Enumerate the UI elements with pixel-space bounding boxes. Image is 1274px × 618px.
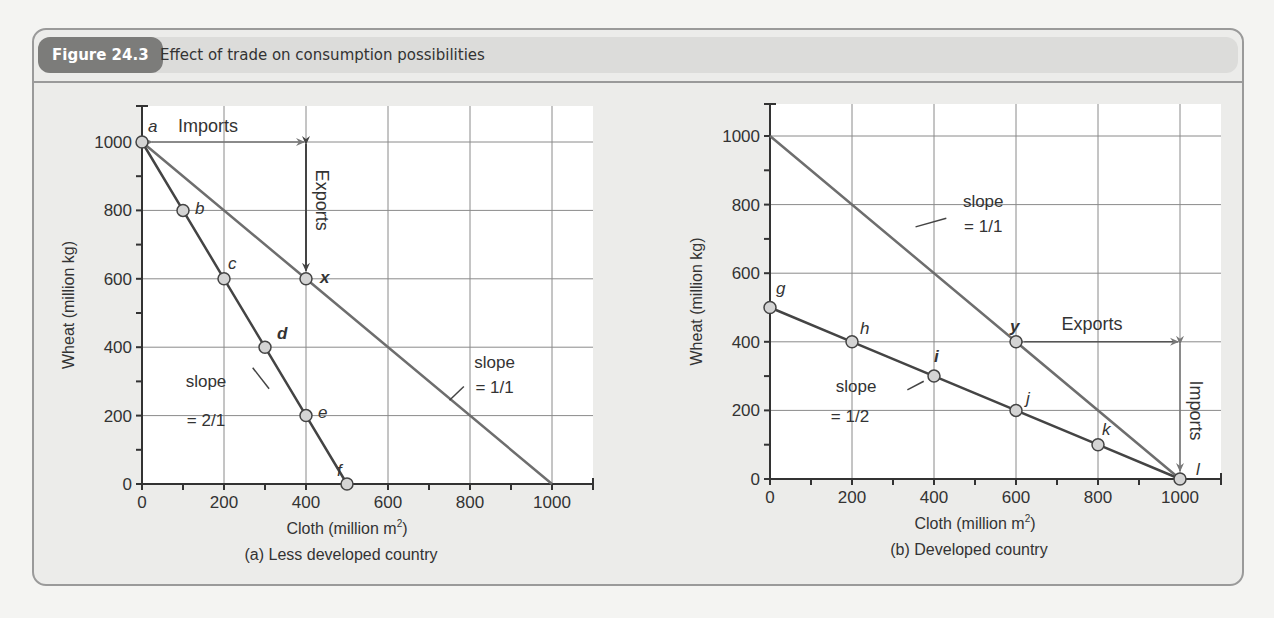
data-point-i	[928, 370, 940, 382]
y-axis-label: Wheat (million kg)	[60, 241, 77, 369]
y-tick-label: 1000	[722, 127, 760, 146]
x-tick-label: 200	[210, 493, 238, 512]
imports-label: Imports	[178, 116, 238, 136]
y-tick-label: 200	[104, 407, 132, 426]
point-label-x: x	[319, 268, 331, 287]
data-point-a	[136, 136, 148, 148]
y-tick-label: 200	[732, 401, 760, 420]
slope-b-trade-value: = 1/1	[964, 217, 1002, 236]
data-point-f	[341, 478, 353, 490]
slope-a-prod-label: slope	[186, 372, 227, 391]
point-label-g: g	[776, 279, 786, 298]
data-point-c	[218, 273, 230, 285]
x-tick-label: 1000	[1161, 488, 1199, 507]
panel-caption: (a) Less developed country	[245, 546, 438, 563]
point-label-b: b	[195, 199, 204, 218]
data-point-j	[1010, 404, 1022, 416]
data-point-b	[177, 204, 189, 216]
data-point-h	[846, 336, 858, 348]
imports-label: Imports	[1186, 380, 1206, 440]
point-label-y: y	[1009, 317, 1021, 336]
slope-b-prod-value: = 1/2	[831, 407, 869, 426]
panel-a-chart: 0200400600800100002004006008001000Wheat …	[60, 106, 593, 563]
x-tick-label: 0	[765, 488, 774, 507]
slope-a-trade-label: slope	[474, 353, 515, 372]
x-tick-label: 800	[456, 493, 484, 512]
y-tick-label: 1000	[94, 133, 132, 152]
x-tick-label: 1000	[533, 493, 571, 512]
point-label-d: d	[277, 324, 288, 343]
y-tick-label: 800	[732, 196, 760, 215]
point-label-e: e	[318, 403, 327, 422]
y-tick-label: 400	[104, 338, 132, 357]
data-point-g	[764, 302, 776, 314]
y-tick-label: 600	[104, 270, 132, 289]
slope-a-prod-value: = 2/1	[187, 411, 225, 430]
exports-label: Exports	[1061, 314, 1122, 334]
x-tick-label: 400	[920, 488, 948, 507]
point-label-c: c	[228, 254, 237, 273]
x-tick-label: 600	[1002, 488, 1030, 507]
panel-b-chart: 0200400600800100002004006008001000Wheat …	[688, 104, 1221, 558]
y-tick-label: 800	[104, 201, 132, 220]
x-axis-label: Cloth (million m2)	[914, 513, 1035, 532]
point-label-h: h	[860, 319, 869, 338]
x-tick-label: 600	[374, 493, 402, 512]
data-point-x	[300, 273, 312, 285]
slope-b-prod-label: slope	[836, 377, 877, 396]
exports-label: Exports	[312, 170, 332, 231]
data-point-k	[1092, 439, 1104, 451]
x-tick-label: 0	[137, 493, 146, 512]
panel-caption: (b) Developed country	[890, 541, 1047, 558]
y-tick-label: 0	[751, 470, 760, 489]
x-tick-label: 800	[1084, 488, 1112, 507]
x-tick-label: 400	[292, 493, 320, 512]
data-point-e	[300, 410, 312, 422]
x-axis-label: Cloth (million m2)	[286, 518, 407, 537]
point-label-a: a	[148, 117, 157, 136]
slope-a-trade-value: = 1/1	[475, 378, 513, 397]
y-tick-label: 600	[732, 264, 760, 283]
y-axis-label: Wheat (million kg)	[688, 237, 705, 365]
data-point-d	[259, 341, 271, 353]
x-tick-label: 200	[838, 488, 866, 507]
y-tick-label: 0	[123, 475, 132, 494]
y-tick-label: 400	[732, 333, 760, 352]
data-point-l	[1174, 473, 1186, 485]
charts-svg: 0200400600800100002004006008001000Wheat …	[0, 0, 1274, 618]
slope-b-trade-label: slope	[963, 192, 1004, 211]
data-point-y	[1010, 336, 1022, 348]
